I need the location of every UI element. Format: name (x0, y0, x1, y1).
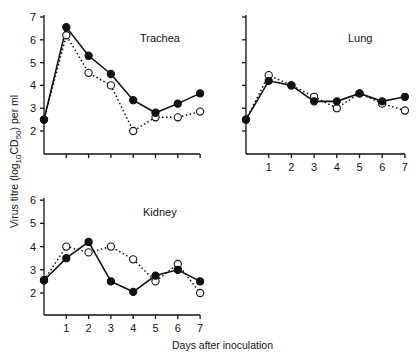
y-tick-label: 2 (30, 287, 36, 299)
panel-title: Lung (348, 32, 372, 44)
x-tick-label: 5 (356, 161, 362, 173)
y-tick-label: 2 (30, 125, 36, 137)
filled-data-point (63, 24, 70, 31)
open-data-point (401, 107, 408, 114)
trachea-panel: 765432Trachea (30, 11, 204, 158)
filled-data-point (152, 109, 159, 116)
filled-data-point (85, 52, 92, 59)
y-tick-label: 4 (30, 79, 36, 91)
panel-title: Kidney (143, 206, 177, 218)
panel-title: Trachea (140, 32, 181, 44)
open-data-point (85, 249, 92, 256)
filled-data-point (333, 98, 340, 105)
filled-data-point (107, 278, 114, 285)
x-tick-label: 6 (379, 161, 385, 173)
lung-panel: 1234567Lung (242, 15, 409, 173)
y-tick-label: 6 (30, 34, 36, 46)
open-data-point (197, 108, 204, 115)
virus-titre-chart: 765432Trachea1234567Lung654321234567Kidn… (0, 0, 418, 359)
x-tick-label: 4 (130, 322, 136, 334)
filled-data-point (356, 90, 363, 97)
y-tick-label: 6 (30, 194, 36, 206)
x-tick-label: 5 (152, 322, 158, 334)
y-axis-title: Virus titre (log10CD50) per ml (8, 95, 23, 228)
y-tick-label: 3 (30, 264, 36, 276)
open-data-point (107, 243, 114, 250)
filled-data-point (174, 100, 181, 107)
filled-data-point (242, 116, 249, 123)
filled-data-point (40, 116, 47, 123)
filled-data-point (288, 82, 295, 89)
y-tick-label: 7 (30, 11, 36, 23)
filled-data-point (152, 272, 159, 279)
filled-data-point (130, 288, 137, 295)
y-tick-label: 3 (30, 102, 36, 114)
filled-data-point (63, 255, 70, 262)
x-axis-title: Days after inoculation (172, 339, 273, 351)
open-data-point (130, 127, 137, 134)
y-tick-label: 5 (30, 217, 36, 229)
x-tick-label: 2 (86, 322, 92, 334)
x-tick-label: 7 (402, 161, 408, 173)
open-data-point (63, 243, 70, 250)
open-data-point (107, 82, 114, 89)
open-data-point (174, 114, 181, 121)
open-data-point (85, 69, 92, 76)
x-tick-label: 1 (63, 322, 69, 334)
x-tick-label: 3 (108, 322, 114, 334)
filled-data-point (311, 98, 318, 105)
x-tick-label: 1 (266, 161, 272, 173)
filled-data-point (107, 70, 114, 77)
filled-data-point (401, 93, 408, 100)
open-data-point (130, 256, 137, 263)
filled-data-point (130, 97, 137, 104)
x-tick-label: 6 (175, 322, 181, 334)
open-data-point (333, 105, 340, 112)
filled-data-point (40, 277, 47, 284)
open-data-point (197, 289, 204, 296)
x-tick-label: 4 (334, 161, 340, 173)
x-tick-label: 3 (311, 161, 317, 173)
filled-data-point (197, 90, 204, 97)
filled-data-point (85, 238, 92, 245)
kidney-panel: 654321234567Kidney (30, 194, 204, 334)
filled-data-point (197, 278, 204, 285)
y-tick-label: 5 (30, 57, 36, 69)
x-tick-label: 2 (288, 161, 294, 173)
y-tick-label: 4 (30, 241, 36, 253)
filled-data-point (379, 98, 386, 105)
filled-data-point (265, 77, 272, 84)
x-tick-label: 7 (197, 322, 203, 334)
filled-data-point (174, 266, 181, 273)
open-data-point (63, 32, 70, 39)
